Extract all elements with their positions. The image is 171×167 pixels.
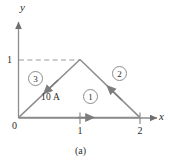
y-axis-label: y — [20, 2, 25, 13]
branch-1-badge: 1 — [83, 89, 98, 104]
x-tick-label-1: 1 — [78, 126, 83, 136]
branch-2-current-arrow — [110, 89, 122, 101]
x-tick-label-2: 2 — [138, 126, 143, 136]
figure-caption: (a) — [75, 146, 86, 156]
x-axis-label: x — [159, 111, 164, 122]
branch-2-badge: 2 — [112, 66, 127, 81]
y-tick-label-1: 1 — [7, 55, 12, 65]
figure-container: y x 0 1 1 2 10 A 1 2 3 (a) — [0, 0, 171, 167]
branch-3-current-arrow — [47, 80, 59, 91]
origin-label: 0 — [12, 121, 17, 131]
branch-3-label: 3 — [33, 74, 38, 84]
current-magnitude-label: 10 A — [41, 93, 60, 103]
branch-2-label: 2 — [117, 69, 122, 79]
branch-3-badge: 3 — [28, 71, 43, 86]
branch-1-label: 1 — [88, 92, 93, 102]
triangular-current-loop-diagram — [0, 0, 171, 167]
